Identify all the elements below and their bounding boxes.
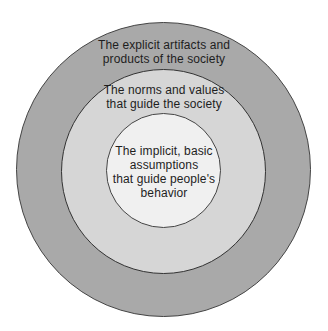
outer-label-line-2: products of the society: [0, 52, 328, 66]
middle-layer-label: The norms and values that guide the soci…: [0, 83, 328, 111]
inner-label-line-4: behavior: [0, 186, 328, 200]
inner-label-line-3: that guide people's: [0, 172, 328, 186]
inner-label-line-1: The implicit, basic: [0, 144, 328, 158]
inner-layer-label: The implicit, basic assumptions that gui…: [0, 144, 328, 200]
outer-layer-label: The explicit artifacts and products of t…: [0, 38, 328, 66]
outer-label-line-1: The explicit artifacts and: [0, 38, 328, 52]
inner-label-line-2: assumptions: [0, 158, 328, 172]
middle-label-line-2: that guide the society: [0, 97, 328, 111]
middle-label-line-1: The norms and values: [0, 83, 328, 97]
